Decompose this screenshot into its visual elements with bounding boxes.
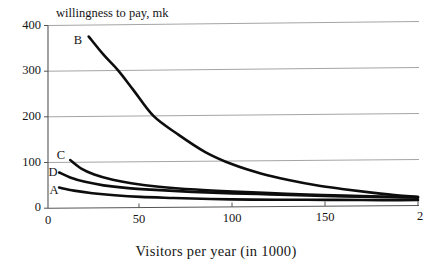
chart-figure: 400 300 200 100 0 0 50 100 150 2 willing… xyxy=(0,0,434,266)
x-tick-label-200: 2 xyxy=(417,209,423,223)
y-tick-label-0: 0 xyxy=(35,200,41,214)
y-tick-label-300: 300 xyxy=(22,63,41,77)
x-tick-label-150: 150 xyxy=(316,210,335,224)
curve-label-a: A xyxy=(49,183,58,197)
willingness-to-pay-line-chart: 400 300 200 100 0 0 50 100 150 2 willing… xyxy=(0,0,434,266)
x-tick-label-100: 100 xyxy=(223,211,242,225)
y-tick-label-100: 100 xyxy=(22,155,41,169)
y-tick-label-400: 400 xyxy=(22,18,41,32)
y-axis-title: willingness to pay, mk xyxy=(56,6,169,20)
curve-label-b: B xyxy=(74,33,82,47)
x-tick-label-50: 50 xyxy=(133,212,146,226)
curve-label-d: D xyxy=(48,165,57,179)
x-tick-label-0: 0 xyxy=(45,213,51,227)
chart-background xyxy=(0,0,434,266)
x-axis-title: Visitors per year (in 1000) xyxy=(135,243,296,260)
y-tick-label-200: 200 xyxy=(22,109,41,123)
curve-label-c: C xyxy=(57,148,65,162)
